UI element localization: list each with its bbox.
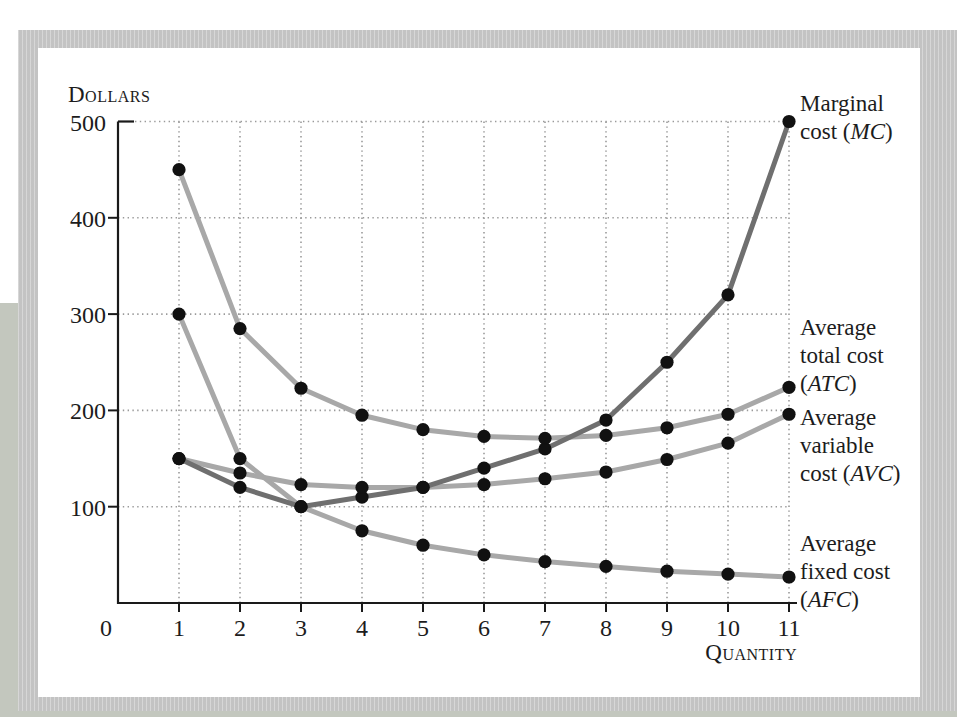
avc-abbr: AVC	[850, 461, 892, 486]
afc-label-line3-prefix: (	[800, 587, 808, 612]
x-tick-label: 7	[523, 616, 567, 640]
avc-label-line3-suffix: )	[893, 461, 901, 486]
atc-label-line3-prefix: (	[800, 371, 808, 396]
axis-ticks	[108, 218, 789, 612]
afc-curve-label: Average fixed cost (AFC)	[800, 530, 890, 614]
mc-label-line2-suffix: )	[885, 119, 893, 144]
atc-curve-label: Average total cost (ATC)	[800, 314, 884, 398]
axes	[118, 122, 797, 604]
curve-atc	[179, 170, 789, 439]
y-tick-label: 200	[38, 399, 106, 423]
gridlines	[118, 122, 789, 604]
mc-abbr: MC	[850, 119, 885, 144]
atc-label-line3-suffix: )	[849, 371, 857, 396]
avc-label-line1: Average	[800, 405, 876, 430]
mc-curve-label: Marginal cost (MC)	[800, 90, 893, 146]
mc-label-line1: Marginal	[800, 91, 884, 116]
x-axis-title: Quantity	[640, 640, 797, 666]
x-tick-label: 6	[462, 616, 506, 640]
atc-label-line2: total cost	[800, 343, 884, 368]
afc-abbr: AFC	[808, 587, 851, 612]
curve-afc	[179, 314, 789, 577]
y-tick-label: 400	[38, 207, 106, 231]
y-tick-label: 300	[38, 303, 106, 327]
atc-abbr: ATC	[808, 371, 849, 396]
y-tick-label: 100	[38, 496, 106, 520]
avc-label-line3-prefix: cost (	[800, 461, 850, 486]
x-tick-label: 0	[84, 616, 128, 640]
x-tick-label: 8	[584, 616, 628, 640]
atc-label-line1: Average	[800, 315, 876, 340]
x-tick-label: 3	[279, 616, 323, 640]
x-tick-label: 1	[157, 616, 201, 640]
afc-label-line3-suffix: )	[851, 587, 859, 612]
x-tick-label: 5	[401, 616, 445, 640]
mc-label-line2-prefix: cost (	[800, 119, 850, 144]
x-tick-label: 2	[218, 616, 262, 640]
afc-label-line1: Average	[800, 531, 876, 556]
avc-label-line2: variable	[800, 433, 874, 458]
x-tick-label: 4	[340, 616, 384, 640]
x-tick-label: 11	[767, 616, 811, 640]
x-tick-label: 10	[706, 616, 750, 640]
avc-curve-label: Average variable cost (AVC)	[800, 404, 900, 488]
y-tick-label: 500	[38, 111, 106, 135]
y-axis-title: Dollars	[68, 82, 150, 108]
x-tick-label: 9	[645, 616, 689, 640]
afc-label-line2: fixed cost	[800, 559, 890, 584]
